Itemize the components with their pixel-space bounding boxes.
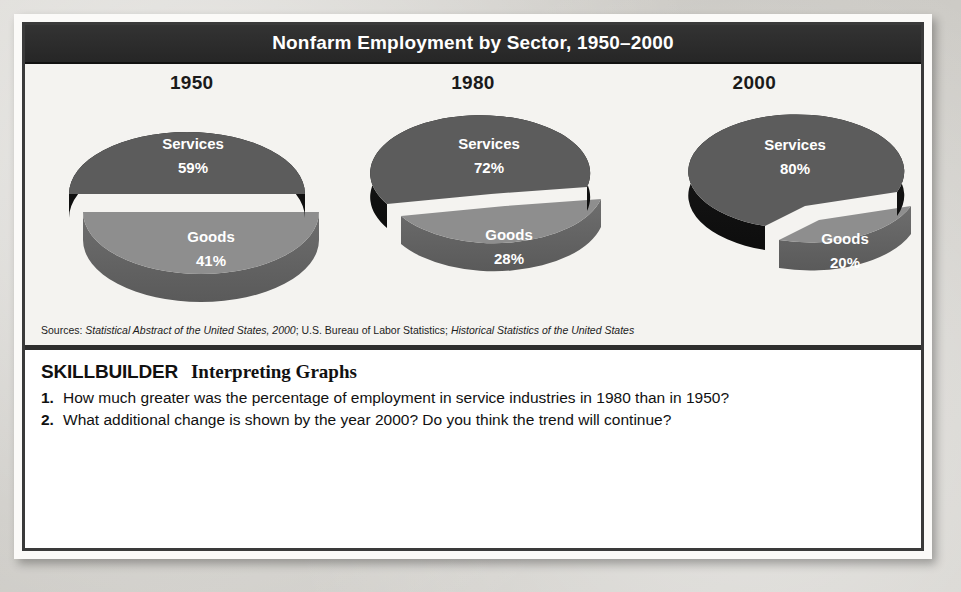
chart-panel: 1950 1980 2000 [25,64,921,345]
figure-frame: Nonfarm Employment by Sector, 1950–2000 … [22,22,924,551]
question-text: What additional change is shown by the y… [63,410,905,430]
goods-value-1980: 28% [494,250,524,267]
goods-label-1950: Goods [187,228,235,245]
goods-label-2000: Goods [821,230,869,247]
question-item: 2. What additional change is shown by th… [41,410,905,430]
figure-title: Nonfarm Employment by Sector, 1950–2000 [25,25,921,64]
question-text: How much greater was the percentage of e… [63,388,905,408]
pie-1950-svg: Services 59% Goods 41% [43,94,343,320]
question-list: 1. How much greater was the percentage o… [41,388,905,431]
question-number: 2. [41,410,63,430]
source-2: U.S. Bureau of Labor Statistics [302,324,446,336]
services-label-1980: Services [458,135,520,152]
year-label-1980: 1980 [334,72,613,94]
services-value-2000: 80% [780,160,810,177]
goods-value-2000: 20% [830,254,860,271]
source-1: Statistical Abstract of the United State… [85,324,295,336]
sources-line: Sources: Statistical Abstract of the Uni… [25,320,921,345]
pie-chart-2000: Services 80% Goods 20% [643,94,943,320]
year-label-1950: 1950 [52,72,331,94]
year-labels-row: 1950 1980 2000 [25,70,921,94]
pie-chart-1950: Services 59% Goods 41% [43,94,343,320]
skillbuilder-label: SKILLBUILDER [41,361,178,383]
pie-1980-svg: Services 72% Goods 28% [343,94,643,320]
services-value-1950: 59% [178,159,208,176]
source-3: Historical Statistics of the United Stat… [451,324,634,336]
question-number: 1. [41,388,63,408]
services-label-2000: Services [764,136,826,153]
pie-chart-1980: Services 72% Goods 28% [343,94,643,320]
pie-charts-row: Services 59% Goods 41% [25,94,921,320]
services-label-1950: Services [162,135,224,152]
figure-card: Nonfarm Employment by Sector, 1950–2000 … [14,14,932,559]
question-item: 1. How much greater was the percentage o… [41,388,905,408]
goods-value-1950: 41% [196,252,226,269]
pie-2000-svg: Services 80% Goods 20% [643,94,943,320]
skillbuilder-heading: SKILLBUILDER Interpreting Graphs [41,361,905,383]
year-label-2000: 2000 [615,72,894,94]
services-value-1980: 72% [474,159,504,176]
skillbuilder-subtitle: Interpreting Graphs [191,361,357,383]
skillbuilder-panel: SKILLBUILDER Interpreting Graphs 1. How … [25,350,921,548]
sources-prefix: Sources: [41,324,85,336]
goods-label-1980: Goods [485,226,533,243]
